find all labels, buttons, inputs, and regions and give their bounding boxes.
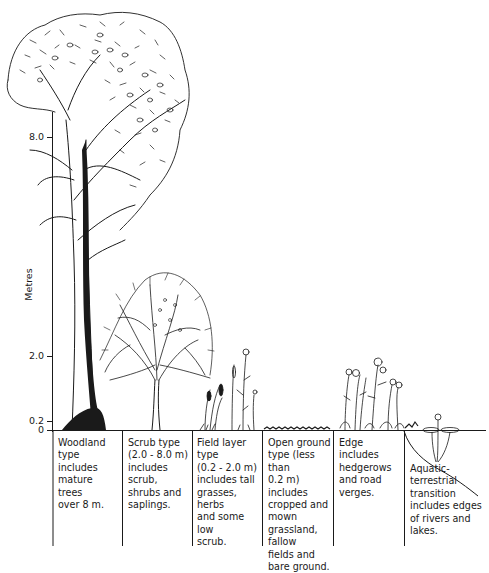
field-layer-description: Field layer type (0.2 - 2.0 m) includes … [197,437,263,549]
woodland-tree-icon [7,12,189,430]
y-tick-2: 2.0 [14,351,44,361]
y-tick-8: 8.0 [14,132,44,142]
y-axis-title: Metres [23,268,34,300]
open-ground-texture-icon [264,427,330,429]
field-layer-plants-icon [200,349,257,430]
aquatic-plants-icon [405,414,459,462]
aquatic-terrestrial-description: Aquatic- terrestrial transition includes… [410,463,486,537]
scrub-description: Scrub type (2.0 - 8.0 m) includes scrub,… [128,437,192,511]
scrub-tree-icon [100,273,214,430]
y-axis [47,112,53,432]
open-ground-description: Open ground type (less than 0.2 m) inclu… [268,437,334,573]
woodland-description: Woodland type includes mature trees over… [58,437,120,511]
edge-description: Edge includes hedgerows and road verges. [339,437,405,499]
edge-plants-icon [340,358,404,430]
y-tick-0: 0 [14,425,44,435]
